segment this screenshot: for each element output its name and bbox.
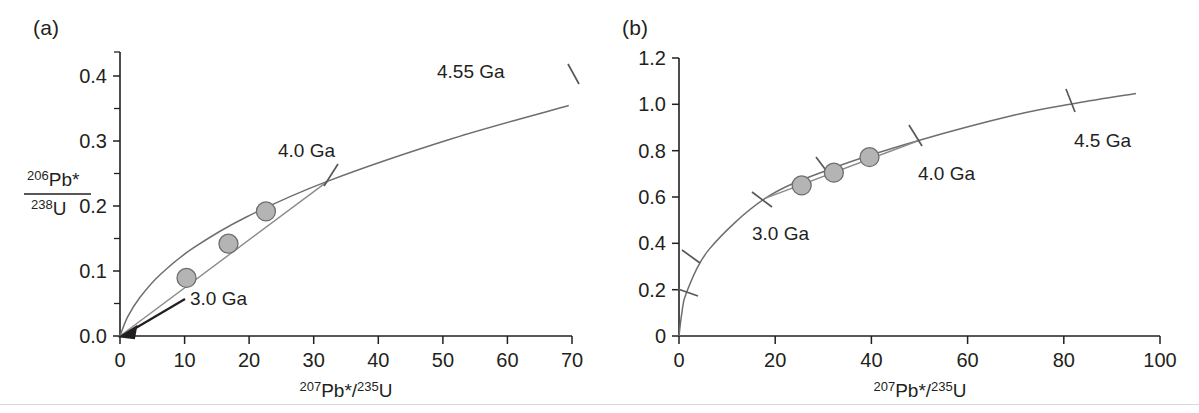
panel-a-concordia-curve <box>120 106 569 336</box>
panel-a-y-axis-denominator: 238U <box>31 197 66 219</box>
panel-b-ytick-label-6: 1.2 <box>638 47 666 69</box>
panel-b-age-label-4.5Ga: 4.5 Ga <box>1074 130 1131 151</box>
figure-concordia-diagrams: (a) 0.0 0.1 0.2 0.3 0.4 <box>0 0 1199 413</box>
panel-b-ytick-label-5: 1.0 <box>638 93 666 115</box>
panel-a-x-base1: Pb*/ <box>321 380 358 401</box>
panel-b-age-tick-4.5Ga <box>1066 89 1075 112</box>
panel-b-xtick-label-5: 100 <box>1143 349 1176 371</box>
panel-a-datapoint <box>256 202 275 221</box>
panel-a-xtick-label-7: 70 <box>561 349 583 371</box>
panel-a-x-base2: U <box>379 380 393 401</box>
panel-b: (b) 0 0.2 0.4 0.6 0.8 1.0 1.2 <box>600 0 1199 413</box>
panel-a-ytick-label-4: 0.4 <box>79 65 107 87</box>
panel-b-plot: 0 0.2 0.4 0.6 0.8 1.0 1.2 0 20 40 60 80 … <box>600 0 1199 413</box>
panel-b-x-base2: U <box>953 380 967 401</box>
panel-a-age-tick-4.55Ga <box>568 64 579 84</box>
bottom-divider <box>0 404 1199 405</box>
panel-a-xtick-label-1: 10 <box>173 349 195 371</box>
panel-b-xtick-label-2: 40 <box>860 349 882 371</box>
panel-a-ytick-label-3: 0.3 <box>79 130 107 152</box>
panel-a-xtick-label-0: 0 <box>114 349 125 371</box>
panel-b-ytick-label-1: 0.2 <box>638 279 666 301</box>
panel-a-arrow-3.0Ga <box>129 299 185 332</box>
panel-a-age-label-4.0Ga: 4.0 Ga <box>278 140 335 161</box>
panel-a-y-den-base: U <box>53 198 67 219</box>
panel-b-xtick-label-0: 0 <box>673 349 684 371</box>
panel-a-x-sup2: 235 <box>357 379 379 394</box>
panel-a-y-num-base: Pb* <box>49 169 80 190</box>
panel-b-ytick-label-0: 0 <box>655 325 666 347</box>
panel-b-age-label-3.0Ga: 3.0 Ga <box>752 223 809 244</box>
panel-a-age-label-3.0Ga: 3.0 Ga <box>190 288 247 309</box>
panel-b-ytick-label-4: 0.8 <box>638 140 666 162</box>
panel-a-age-tick-4.0Ga <box>324 164 338 186</box>
panel-a-ytick-label-1: 0.1 <box>79 260 107 282</box>
panel-b-xtick-label-3: 60 <box>956 349 978 371</box>
panel-a: (a) 0.0 0.1 0.2 0.3 0.4 <box>0 0 600 413</box>
panel-a-datapoint <box>177 268 196 287</box>
panel-b-x-base1: Pb*/ <box>895 380 932 401</box>
panel-a-x-axis-title: 207Pb*/235U <box>299 379 392 401</box>
panel-a-xtick-label-2: 20 <box>238 349 260 371</box>
panel-b-x-axis-title: 207Pb*/235U <box>873 379 966 401</box>
panel-b-ytick-label-3: 0.6 <box>638 186 666 208</box>
panel-a-discordia-line <box>120 181 328 336</box>
panel-b-xtick-label-4: 80 <box>1053 349 1075 371</box>
panel-a-ytick-label-2: 0.2 <box>79 195 107 217</box>
panel-a-age-label-4.55Ga: 4.55 Ga <box>437 61 505 82</box>
panel-b-age-label-4.0Ga: 4.0 Ga <box>918 163 975 184</box>
panel-b-datapoint <box>824 163 843 182</box>
panel-a-y-den-sup: 238 <box>31 197 53 212</box>
panel-a-xtick-label-3: 30 <box>303 349 325 371</box>
panel-b-ytick-label-2: 0.4 <box>638 232 666 254</box>
panel-b-xtick-label-1: 20 <box>764 349 786 371</box>
panel-b-datapoint <box>860 148 879 167</box>
panel-a-y-num-sup: 206 <box>27 168 49 183</box>
panel-b-x-sup1: 207 <box>873 379 895 394</box>
panel-a-datapoint <box>219 234 238 253</box>
panel-a-xtick-label-4: 40 <box>367 349 389 371</box>
panel-b-concordia-curve <box>679 93 1136 336</box>
panel-a-ytick-label-0: 0.0 <box>79 325 107 347</box>
panel-b-age-tick-2.0Ga <box>682 250 700 263</box>
panel-a-plot: 0.0 0.1 0.2 0.3 0.4 0 10 20 30 40 50 60 … <box>0 0 600 413</box>
panel-a-x-sup1: 207 <box>299 379 321 394</box>
panel-b-x-sup2: 235 <box>931 379 953 394</box>
panel-a-y-axis-numerator: 206Pb* <box>27 168 80 190</box>
panel-a-xtick-label-6: 60 <box>496 349 518 371</box>
panel-b-datapoint <box>792 176 811 195</box>
panel-a-xtick-label-5: 50 <box>432 349 454 371</box>
